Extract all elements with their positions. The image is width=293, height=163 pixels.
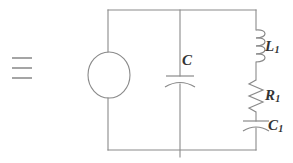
label-capacitor-C: C	[182, 53, 192, 68]
resistor-R1-zigzag	[249, 80, 263, 112]
voltage-source-circle	[88, 52, 130, 98]
label-inductor-L1: L1	[265, 39, 280, 55]
label-capacitor-C1: C1	[268, 118, 283, 134]
triple-bar-symbol	[12, 58, 32, 78]
label-capacitor-C1-text: C	[268, 117, 278, 133]
inductor-L1-coil-4	[256, 54, 265, 62]
inductor-L1-coil-2	[256, 38, 265, 46]
inductor-L1-coil-3	[256, 46, 265, 54]
label-capacitor-C1-subscript: 1	[278, 123, 283, 134]
circuit-schematic-svg	[0, 0, 293, 163]
inductor-L1-symbol	[256, 30, 265, 62]
label-inductor-L1-subscript: 1	[274, 44, 279, 55]
circuit-diagram-canvas: C L1 R1 C1	[0, 0, 293, 163]
label-resistor-R1-text: R	[265, 87, 275, 103]
label-resistor-R1-subscript: 1	[275, 93, 280, 104]
label-capacitor-C-text: C	[182, 52, 192, 68]
label-resistor-R1: R1	[265, 88, 280, 104]
label-inductor-L1-text: L	[265, 38, 274, 54]
inductor-L1-coil-1	[256, 30, 265, 38]
